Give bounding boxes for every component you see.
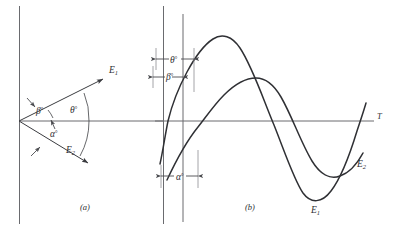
leader-beta-upper bbox=[27, 98, 35, 107]
panel-b-label-E2: E2 bbox=[356, 159, 367, 170]
caption-a: (a) bbox=[80, 202, 90, 212]
panel-a-label-alpha: α° bbox=[50, 129, 58, 140]
caption-b: (b) bbox=[245, 202, 255, 212]
vector-E2 bbox=[19, 121, 88, 163]
panel-b-label-E1: E1 bbox=[310, 205, 320, 216]
panel-b-label-theta: θ° bbox=[170, 55, 178, 66]
panel-a-label-beta: β° bbox=[35, 106, 44, 117]
vector-E1 bbox=[19, 79, 103, 121]
figure-container: β° θ° α° E1 E2 T E1 E2 bbox=[0, 0, 399, 230]
panel-a-label-E1: E1 bbox=[108, 65, 118, 76]
panel-b-label-beta: β° bbox=[165, 72, 174, 83]
panel-a-label-theta: θ° bbox=[70, 105, 78, 116]
panel-a-phasor-diagram: β° θ° α° E1 E2 bbox=[19, 65, 164, 163]
leader-alpha-lower bbox=[31, 147, 40, 156]
panel-a-label-E2: E2 bbox=[65, 145, 76, 156]
arc-beta bbox=[48, 110, 53, 118]
panel-b-waveform-diagram: T E1 E2 θ° β° α° bbox=[153, 14, 383, 222]
panel-b-axis-label-T: T bbox=[377, 111, 383, 121]
curve-E2 bbox=[167, 78, 363, 180]
arc-theta bbox=[84, 93, 89, 121]
arc-alpha bbox=[80, 121, 89, 156]
figure-svg: β° θ° α° E1 E2 T E1 E2 bbox=[0, 0, 399, 230]
